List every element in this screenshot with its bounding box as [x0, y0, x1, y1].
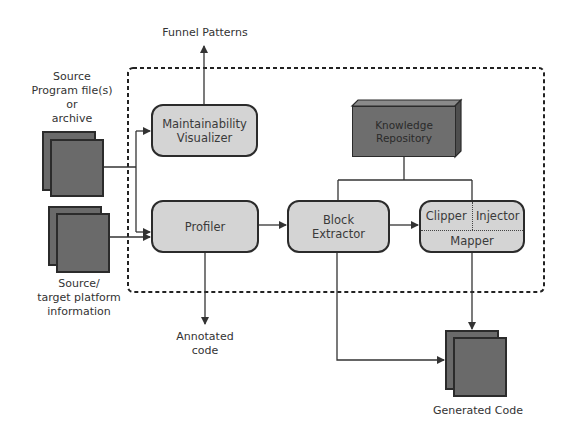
- funnel-patterns-label: Funnel Patterns: [158, 26, 252, 40]
- clipper-cell: Clipper: [421, 202, 473, 230]
- maintainability-visualizer-label: Maintainability: [162, 117, 247, 131]
- generated-code-label: Generated Code: [430, 404, 526, 418]
- transformer-box: Clipper Injector Mapper: [419, 200, 525, 253]
- knowledge-repository-box: Knowledge Repository: [352, 106, 456, 157]
- profiler-box: Profiler: [151, 200, 259, 253]
- mapper-cell: Mapper: [421, 230, 523, 251]
- source-program-label: Source Program file(s) or archive: [30, 70, 114, 126]
- maintainability-visualizer-box: Maintainability Visualizer: [151, 104, 258, 157]
- profiler-label: Profiler: [185, 220, 226, 234]
- block-extractor-box: Block Extractor: [287, 200, 390, 253]
- annotated-code-label-line: Annotated: [170, 330, 240, 344]
- knowledge-repository-label: Knowledge: [375, 119, 433, 132]
- system-boundary: [128, 68, 544, 292]
- platform-info-label-line: target platform: [34, 291, 124, 305]
- block-extractor-label: Block: [312, 213, 365, 227]
- platform-info-label-line: information: [34, 305, 124, 319]
- diagram-canvas: Source Program file(s) or archive Source…: [0, 0, 572, 437]
- source-program-label-line: archive: [30, 112, 114, 126]
- knowledge-repository-label: Repository: [375, 132, 433, 145]
- source-program-label-line: Source: [30, 70, 114, 84]
- annotated-code-label-line: code: [170, 344, 240, 358]
- platform-info-label-line: Source/: [34, 277, 124, 291]
- source-program-label-line: Program file(s): [30, 84, 114, 98]
- maintainability-visualizer-label: Visualizer: [162, 131, 247, 145]
- block-extractor-label: Extractor: [312, 227, 365, 241]
- platform-info-label: Source/ target platform information: [34, 277, 124, 319]
- injector-cell: Injector: [473, 202, 524, 230]
- annotated-code-label: Annotated code: [170, 330, 240, 358]
- source-program-label-line: or: [30, 98, 114, 112]
